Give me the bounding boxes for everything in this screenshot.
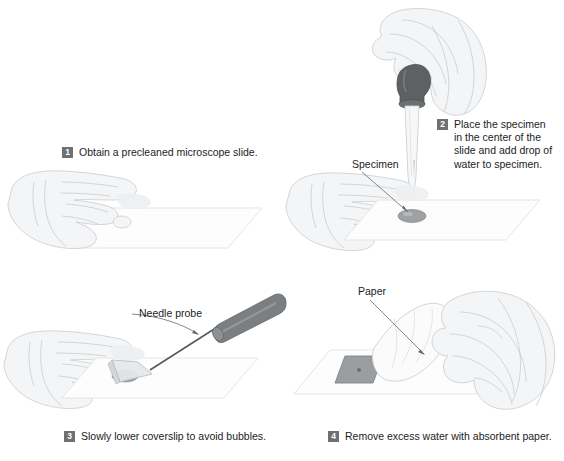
step-1-caption: 1 Obtain a precleaned microscope slide.	[62, 146, 272, 159]
step-2-text: Place the specimen in the center of the …	[454, 118, 552, 171]
callout-needle-probe: Needle probe	[139, 307, 202, 319]
specimen-highlight	[403, 212, 413, 216]
figure-canvas: 1 Obtain a precleaned microscope slide.	[0, 0, 564, 461]
needle-probe-handle	[210, 294, 286, 343]
callout-paper: Paper	[358, 285, 386, 297]
callout-specimen: Specimen	[352, 158, 399, 170]
step-4-badge: 4	[328, 431, 339, 442]
step-1-text: Obtain a precleaned microscope slide.	[79, 146, 258, 159]
step-4-illustration	[282, 290, 564, 435]
step-4-text: Remove excess water with absorbent paper…	[345, 430, 552, 443]
callout-paper-label: Paper	[358, 285, 386, 297]
microscope-slide	[344, 200, 540, 240]
step-3-text: Slowly lower coverslip to avoid bubbles.	[81, 430, 266, 443]
hand-holding-dropper	[372, 9, 486, 116]
hand-shadow	[117, 193, 151, 209]
callout-needle-probe-label: Needle probe	[139, 307, 202, 319]
step-4-panel	[282, 290, 564, 435]
specimen-drop	[398, 210, 426, 223]
step-4-caption: 4 Remove excess water with absorbent pap…	[328, 430, 564, 443]
callout-specimen-label: Specimen	[352, 158, 399, 170]
step-2-badge: 2	[437, 119, 448, 130]
step-2-caption: 2 Place the specimen in the center of th…	[437, 118, 561, 171]
step-3-badge: 3	[64, 431, 75, 442]
specimen-under-coverslip	[357, 368, 361, 372]
step-3-caption: 3 Slowly lower coverslip to avoid bubble…	[64, 430, 294, 443]
step-1-badge: 1	[62, 147, 73, 158]
dropper-bulb	[397, 64, 431, 108]
